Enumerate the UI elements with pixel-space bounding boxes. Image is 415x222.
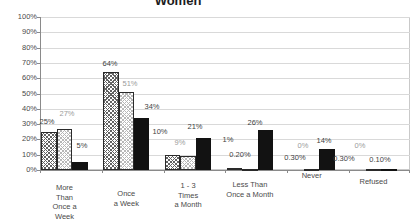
y-axis-tick-label: 90% [11,28,37,36]
gridline [40,94,410,95]
bar-data-label: 25% [39,118,54,126]
bar-series-2-light-crosshatch-cat0 [57,129,72,170]
bar-series-3-solid-black-cat0 [72,162,87,170]
x-axis-tick [164,170,165,173]
y-axis-tick-label: 40% [11,105,37,113]
y-axis-tick-label: 0% [11,166,37,174]
bar-data-label: 64% [102,60,117,68]
bar-series-2-light-crosshatch-cat5 [366,169,381,171]
x-axis-tick [102,170,103,173]
bar-series-3-solid-black-cat2 [196,138,211,170]
x-category-label-line: Times [175,191,202,201]
x-category-label: 1 - 3Timesa Month [175,181,202,210]
x-category-label-line: Once [114,189,139,199]
chart-title: Women [155,0,202,8]
bar-data-label: 9% [175,139,186,147]
y-axis-tick-label: 30% [11,120,37,128]
y-axis-tick-label: 60% [11,74,37,82]
bar-series-1-dark-crosshatch-cat2 [165,155,180,170]
y-axis-tick-label: 100% [11,13,37,21]
x-category-label-line: Never [302,171,322,181]
bar-series-3-solid-black-cat3 [258,130,273,170]
gridline [40,78,410,79]
gridline [40,48,410,49]
x-category-label-line: a Week [114,199,139,209]
x-category-label-line: Less Than [226,180,273,190]
bar-data-label: 51% [122,80,137,88]
y-axis-tick-label: 80% [11,44,37,52]
x-category-label-line: More [52,183,76,193]
bar-data-label: 10% [152,128,167,136]
x-axis-tick [40,170,41,173]
y-axis-tick-label: 70% [11,59,37,67]
x-category-label-line: Week [52,212,76,222]
gridline [40,32,410,33]
y-axis-tick-label: 10% [11,151,37,159]
gridline [40,17,410,18]
x-axis-tick [409,170,410,173]
bar-data-label: 0% [298,142,309,150]
bar-data-label: 14% [316,137,331,145]
bar-data-label: 34% [144,103,159,111]
y-axis-tick-label: 20% [11,135,37,143]
x-category-label: Refused [360,177,388,187]
x-axis-tick [349,170,350,173]
bar-data-label: 5% [77,142,88,150]
bar-series-3-solid-black-cat5 [381,169,396,171]
bar-series-1-dark-crosshatch-cat0 [41,132,56,170]
bar-series-1-dark-crosshatch-cat1 [103,72,118,170]
bar-series-1-dark-crosshatch-cat3 [227,168,242,170]
x-axis-tick [287,170,288,173]
x-category-label-line: 1 - 3 [175,181,202,191]
x-category-label-line: Than [52,193,76,203]
x-category-label-line: a Month [175,200,202,210]
bar-data-label: 0.20% [229,151,250,159]
bar-data-label: 0.30% [333,155,354,163]
x-category-label: Less ThanOnce a Month [226,180,273,199]
x-category-label-line: Once a [52,202,76,212]
bar-series-2-light-crosshatch-cat3 [242,169,257,171]
bar-data-label: 21% [187,123,202,131]
gridline [40,109,410,110]
bar-chart: Women 0%10%20%30%40%50%60%70%80%90%100%2… [0,0,415,222]
bar-series-2-light-crosshatch-cat1 [119,92,134,170]
x-category-label-line: Once a Month [226,190,273,200]
gridline [40,124,410,125]
bar-data-label: 0.10% [369,156,390,164]
y-axis-tick-label: 50% [11,90,37,98]
x-category-label: MoreThanOnce aWeek [52,183,76,221]
bar-data-label: 0% [355,142,366,150]
bar-series-3-solid-black-cat1 [134,118,149,170]
bar-data-label: 1% [223,136,234,144]
bar-data-label: 26% [247,119,262,127]
x-category-label: Never [302,171,322,181]
x-category-label: Oncea Week [114,189,139,208]
bar-series-2-light-crosshatch-cat2 [180,156,195,170]
bar-data-label: 0.30% [284,154,305,162]
bar-data-label: 27% [59,110,74,118]
x-category-label-line: Refused [360,177,388,187]
gridline [40,63,410,64]
